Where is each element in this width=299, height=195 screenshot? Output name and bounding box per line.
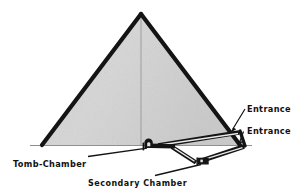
secondary-chamber-void	[200, 160, 202, 163]
secondary-chamber-label: Secondary Chamber	[88, 179, 187, 188]
tomb-chamber-void	[147, 142, 150, 146]
entrance-upper-label: Entrance	[247, 104, 291, 114]
pyramid-diagram: Entrance Entrance Tomb-Chamber Secondary…	[0, 0, 299, 195]
tomb-chamber-leader	[88, 148, 147, 156]
tomb-chamber-label: Tomb-Chamber	[13, 159, 87, 169]
tomb-access-corridor	[150, 146, 175, 147]
descending-corridor-void	[174, 148, 195, 162]
entrance-upper-leader	[233, 109, 246, 130]
pyramid-diagram-canvas: Entrance Entrance Tomb-Chamber Secondary…	[0, 0, 299, 195]
secondary-chamber	[198, 158, 208, 163]
entrance-lower-label: Entrance	[247, 126, 291, 136]
secondary-chamber-leader	[155, 165, 201, 176]
